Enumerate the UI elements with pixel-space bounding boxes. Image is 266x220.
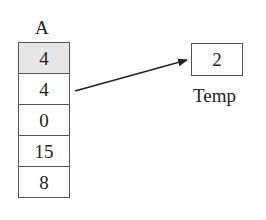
arrow-a1-to-temp: [0, 0, 266, 220]
temp-box: 2: [191, 43, 243, 76]
temp-label: Temp: [193, 86, 236, 105]
